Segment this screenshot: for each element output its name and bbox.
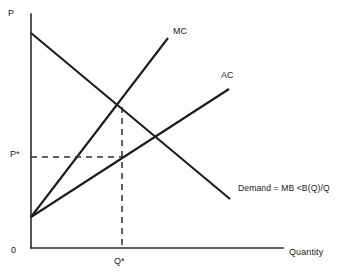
demand-curve-label: Demand = MB <B(Q)/Q	[238, 184, 330, 193]
p-star-tick-label: P*	[10, 150, 20, 159]
mc-curve	[31, 38, 168, 217]
ac-curve-label: AC	[221, 71, 234, 80]
x-axis-label: Quantity	[289, 248, 323, 257]
demand-curve	[31, 33, 230, 199]
plot-area	[0, 0, 354, 280]
q-star-tick-label: Q*	[114, 257, 125, 266]
economics-diagram: P Quantity 0 P* Q* MC AC Demand = MB <B(…	[0, 0, 354, 280]
ac-curve	[31, 89, 229, 217]
mc-curve-label: MC	[173, 27, 187, 36]
origin-label: 0	[11, 246, 16, 255]
y-axis-label: P	[8, 9, 14, 18]
